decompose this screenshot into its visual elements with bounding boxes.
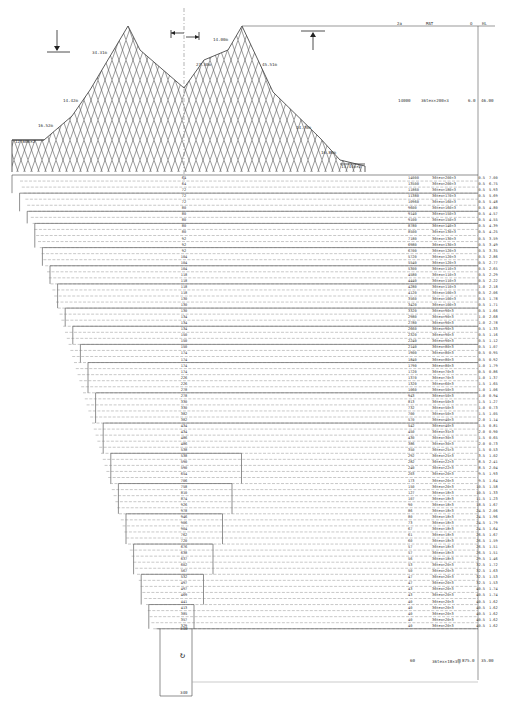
arrow-up-icon (301, 31, 325, 50)
cell-n: 40 (408, 623, 430, 630)
wing-label: 14.70m (296, 125, 311, 130)
codend-mesh-bottom: 340 (180, 690, 188, 695)
header-hl: HL (482, 21, 487, 26)
wing-label: 14.00m (213, 37, 228, 42)
cell-mat: 36tex×20×3 (432, 623, 478, 630)
codend-mesh-top: 340 (180, 626, 188, 631)
header-n: 2a (397, 21, 402, 26)
wing-label: 45.51m (262, 62, 277, 67)
wing-label: 12.60m×2 (15, 139, 35, 144)
cell-hl: 1.62 (489, 623, 505, 630)
table-row: 3294036tex×20×340.51.62 (0, 623, 507, 630)
arrow-down-icon (47, 30, 70, 52)
wing-label: 27.30m (196, 62, 211, 67)
wing-label: 13.44m×2 (341, 164, 361, 169)
wing-label: 34.31m (92, 50, 107, 55)
header-mat: MAT (426, 21, 433, 26)
wing-label: 16.52m (38, 123, 53, 128)
wing-netting (0, 0, 400, 180)
wing-label: 14.42m (63, 98, 78, 103)
width-marker-icon (171, 30, 199, 40)
wing-label: 16.80m (321, 150, 336, 155)
codend-ring-icon: ↻ (180, 650, 185, 660)
cell-o: 40.5 (475, 623, 485, 630)
header-o: O (470, 21, 472, 26)
